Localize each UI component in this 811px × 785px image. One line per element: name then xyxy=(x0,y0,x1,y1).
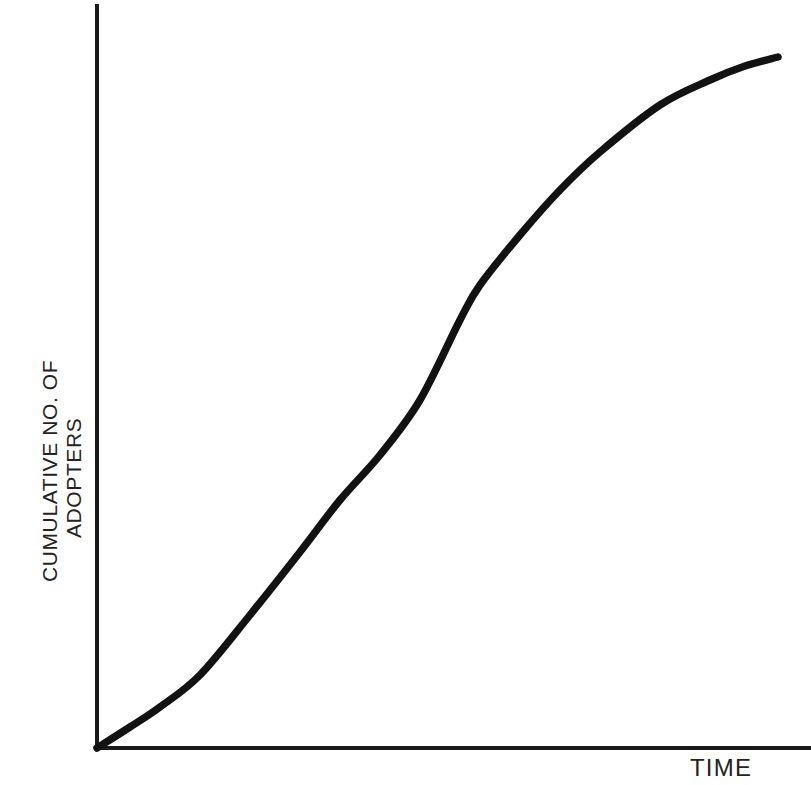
x-axis-label: TIME xyxy=(690,754,752,782)
adoption-s-curve xyxy=(97,57,778,748)
chart-plot-area xyxy=(0,0,811,785)
chart-figure: CUMULATIVE NO. OF ADOPTERS TIME xyxy=(0,0,811,785)
